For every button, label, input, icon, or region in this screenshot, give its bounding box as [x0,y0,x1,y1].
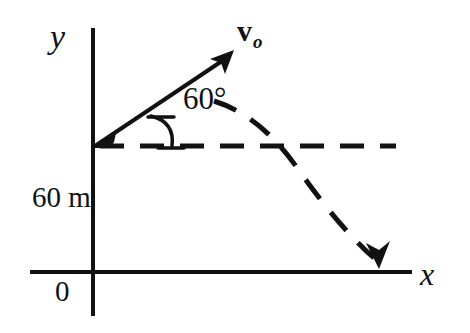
angle-label: 60° [183,83,226,114]
origin-label: 0 [55,277,70,306]
velocity-vector-label-main: v [237,14,252,47]
x-axis-label: x [420,258,434,290]
projectile-diagram-svg [0,0,470,333]
y-axis-label: y [50,20,65,54]
figure-canvas: y x 0 vo 60° 60 m [0,0,470,333]
velocity-vector-arrowhead [210,50,234,74]
angle-arc [151,116,172,146]
height-label: 60 m [32,183,91,212]
trajectory-dashed-path [214,101,374,258]
velocity-vector-label-subscript: o [253,31,263,52]
velocity-vector-label: vo [237,16,262,46]
